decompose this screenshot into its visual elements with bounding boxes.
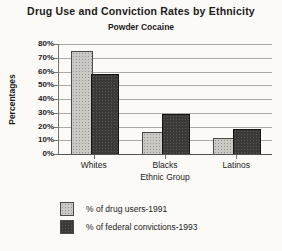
x-category-label: Whites	[64, 160, 124, 170]
y-axis-title: Percentages	[7, 45, 18, 155]
y-axis-line	[58, 44, 59, 155]
x-category-label: Latinos	[206, 160, 266, 170]
x-tick	[165, 155, 166, 159]
y-tick-label: 60%	[20, 67, 54, 76]
y-tick-label: 50%	[20, 80, 54, 89]
chart-subtitle: Powder Cocaine	[0, 22, 282, 32]
y-tick-label: 40%	[20, 94, 54, 103]
legend-label-drug-users: % of drug users-1991	[74, 204, 167, 214]
legend-swatch-drug-users	[60, 202, 74, 216]
legend-item-federal-convictions: % of federal convictions-1993	[60, 220, 198, 234]
y-tick-label: 70%	[20, 53, 54, 62]
legend-label-federal-convictions: % of federal convictions-1993	[74, 222, 198, 232]
bar-federal-convictions	[233, 129, 261, 154]
bar-drug-users	[71, 51, 93, 154]
bar-federal-convictions	[162, 114, 190, 154]
bar-drug-users	[213, 138, 235, 155]
chart-title: Drug Use and Conviction Rates by Ethnici…	[0, 5, 282, 17]
y-tick-label: 0%	[20, 149, 54, 158]
legend-swatch-federal-convictions	[60, 220, 74, 234]
y-tick-label: 10%	[20, 135, 54, 144]
legend-item-drug-users: % of drug users-1991	[60, 202, 198, 216]
x-category-label: Blacks	[135, 160, 195, 170]
gridline	[58, 44, 272, 45]
x-tick	[94, 155, 95, 159]
chart-figure: Drug Use and Conviction Rates by Ethnici…	[0, 0, 282, 251]
bar-federal-convictions	[91, 74, 119, 154]
bar-drug-users	[142, 132, 164, 154]
y-tick-label: 80%	[20, 39, 54, 48]
y-tick-label: 30%	[20, 108, 54, 117]
legend: % of drug users-1991 % of federal convic…	[60, 202, 198, 234]
x-axis-title: Ethnic Group	[58, 172, 272, 182]
x-tick	[236, 155, 237, 159]
y-tick-label: 20%	[20, 122, 54, 131]
